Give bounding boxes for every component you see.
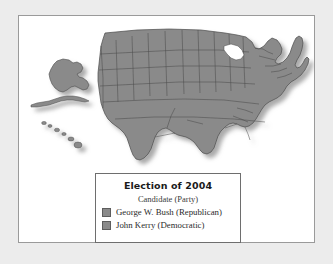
figure-card: Election of 2004 Candidate (Party) Georg… [18,15,315,243]
legend-entry-kerry[interactable]: John Kerry (Democratic) [96,221,240,230]
legend-swatch-bush [102,208,111,217]
contiguous-us-landmass [98,29,309,160]
legend-label-bush: George W. Bush (Republican) [116,208,222,217]
alaska-inset [49,59,89,92]
map-legend: Election of 2004 Candidate (Party) Georg… [95,173,241,243]
legend-label-kerry: John Kerry (Democratic) [116,221,204,230]
election-map-figure: Election of 2004 Candidate (Party) Georg… [0,0,333,264]
alaska-aleutians [31,96,89,107]
legend-subtitle: Candidate (Party) [96,194,240,204]
legend-swatch-kerry [102,221,111,230]
map-area [19,16,314,186]
hawaii-inset [42,121,82,148]
legend-title: Election of 2004 [96,180,240,191]
legend-entry-bush[interactable]: George W. Bush (Republican) [96,208,240,217]
united-states-map[interactable] [19,16,314,186]
